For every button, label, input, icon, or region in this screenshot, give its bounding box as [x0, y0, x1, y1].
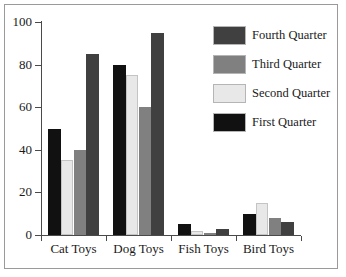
y-axis-tick-label: 100	[0, 15, 32, 28]
legend-swatch-icon	[213, 113, 246, 132]
legend-label: Fourth Quarter	[252, 27, 327, 44]
y-axis-tick-label: 60	[0, 100, 32, 113]
bar	[139, 107, 152, 235]
bar	[256, 203, 269, 235]
x-axis-tick	[106, 236, 107, 241]
x-axis-tick	[171, 236, 172, 241]
legend-label: First Quarter	[252, 114, 316, 131]
legend-item[interactable]: Fourth Quarter	[213, 26, 341, 55]
x-axis-category-label: Cat Toys	[41, 242, 106, 256]
x-axis-category-label: Bird Toys	[236, 242, 301, 256]
legend-item[interactable]: Second Quarter	[213, 84, 341, 113]
bar	[191, 231, 204, 235]
x-axis-category-label: Dog Toys	[106, 242, 171, 256]
legend-swatch-icon	[213, 84, 246, 103]
x-axis-tick	[236, 236, 237, 241]
bar	[126, 75, 139, 235]
legend-label: Second Quarter	[252, 85, 330, 102]
y-axis-tick-label: 20	[0, 185, 32, 198]
x-axis-tick	[301, 236, 302, 241]
y-axis-tick-label: 0	[0, 228, 32, 241]
bar	[86, 54, 99, 235]
legend-item[interactable]: First Quarter	[213, 113, 341, 142]
bar	[61, 160, 74, 235]
legend-item[interactable]: Third Quarter	[213, 55, 341, 84]
x-axis-tick	[41, 236, 42, 241]
legend-swatch-icon	[213, 55, 246, 74]
legend-label: Third Quarter	[252, 56, 321, 73]
bar	[113, 65, 126, 235]
y-axis-tick-label: 40	[0, 143, 32, 156]
bar	[204, 233, 217, 235]
bar	[243, 214, 256, 235]
legend-swatch-icon	[213, 26, 246, 45]
bar	[269, 218, 282, 235]
chart-legend: Fourth QuarterThird QuarterSecond Quarte…	[213, 26, 341, 142]
bar	[151, 33, 164, 235]
y-axis-tick-label: 80	[0, 58, 32, 71]
x-axis-category-label: Fish Toys	[171, 242, 236, 256]
bar	[74, 150, 87, 235]
bar	[281, 222, 294, 235]
chart-screenshot: 020406080100 Cat ToysDog ToysFish ToysBi…	[0, 0, 346, 277]
bar	[216, 229, 229, 235]
bar	[178, 224, 191, 235]
bar	[48, 129, 61, 236]
